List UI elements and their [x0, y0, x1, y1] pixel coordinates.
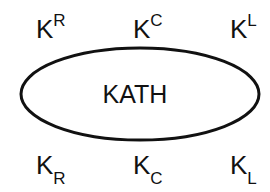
- label-k-super-c: KC: [133, 14, 163, 42]
- label-k-sub-c: KC: [133, 152, 163, 183]
- center-label: KATH: [0, 80, 270, 109]
- label-k-sub-l: KL: [230, 152, 257, 183]
- label-k-sub-r: KR: [36, 152, 66, 183]
- label-k-super-l: KL: [230, 14, 257, 42]
- label-k-super-r: KR: [36, 14, 66, 42]
